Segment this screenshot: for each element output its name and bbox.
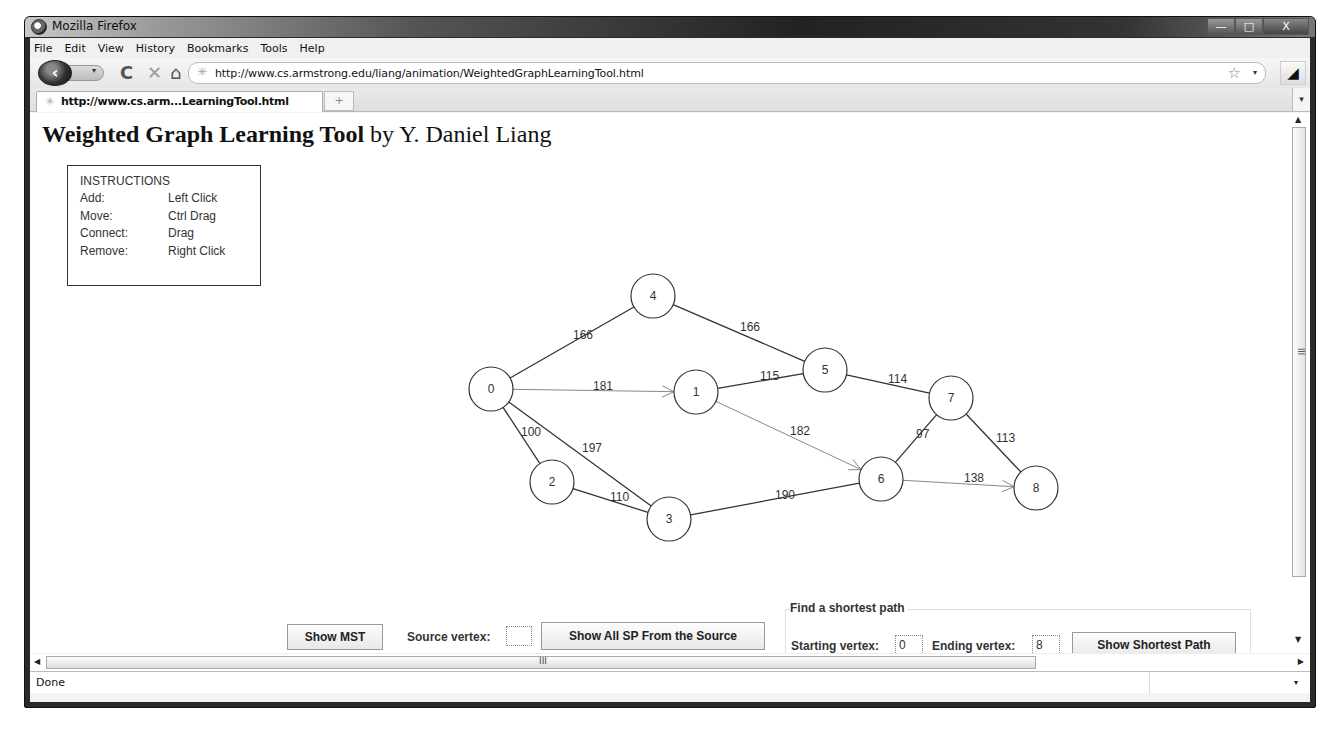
vertex-label: 7	[948, 391, 955, 405]
edge-weight-label: 114	[888, 372, 907, 386]
scroll-up-icon[interactable]: ▲	[1295, 115, 1301, 124]
vertex-label: 4	[650, 289, 657, 303]
home-icon[interactable]: ⌂	[170, 62, 181, 83]
arrowhead-icon	[1002, 487, 1014, 492]
browser-window: Mozilla Firefox — □ X FileEditViewHistor…	[24, 16, 1316, 708]
show-shortest-path-button[interactable]: Show Shortest Path	[1072, 632, 1236, 653]
menu-history[interactable]: History	[136, 42, 175, 55]
show-all-sp-button[interactable]: Show All SP From the Source	[541, 622, 765, 650]
back-button[interactable]: ‹	[38, 60, 72, 86]
menu-tools[interactable]: Tools	[260, 42, 287, 55]
menu-edit[interactable]: Edit	[64, 42, 85, 55]
window-controls: — □ X	[1207, 18, 1309, 35]
firefox-logo-icon	[31, 19, 47, 35]
browser-chrome: FileEditViewHistoryBookmarksToolsHelp ▾ …	[30, 38, 1310, 702]
edge-weight-label: 166	[573, 328, 593, 342]
navigation-toolbar: ▾ ‹ C ✕ ⌂ ✳ http://www.cs.armstrong.edu/…	[30, 58, 1310, 88]
vertex-label: 0	[488, 382, 495, 396]
status-divider	[1149, 672, 1150, 694]
vertex-label: 3	[666, 512, 673, 526]
arrowhead-icon	[662, 392, 674, 397]
edge-1-6[interactable]	[716, 401, 861, 469]
history-dropdown-icon[interactable]: ▾	[92, 66, 96, 75]
tab-active[interactable]: ✳ http://www.cs.arm...LearningTool.html	[36, 91, 323, 112]
edge-weight-label: 113	[996, 431, 1015, 445]
menu-bookmarks[interactable]: Bookmarks	[187, 42, 248, 55]
status-dropdown-icon[interactable]: ▾	[1294, 678, 1298, 687]
addon-icon[interactable]: ◢	[1280, 61, 1306, 85]
scroll-left-icon[interactable]: ◀	[34, 657, 40, 666]
close-button[interactable]: X	[1263, 18, 1309, 35]
edge-weight-label: 138	[964, 471, 984, 485]
edge-weight-label: 181	[593, 379, 613, 393]
status-bar: Done ▾	[30, 671, 1310, 693]
horizontal-scroll-thumb[interactable]: III	[46, 656, 1036, 669]
minimize-button[interactable]: —	[1207, 18, 1235, 35]
title-bar: Mozilla Firefox — □ X	[25, 17, 1315, 37]
starting-vertex-input[interactable]: 0	[895, 635, 923, 653]
tab-list-button[interactable]: ▾	[1292, 88, 1310, 111]
source-vertex-label: Source vertex:	[407, 630, 490, 644]
edge-weight-label: 100	[521, 425, 541, 439]
vertex-label: 6	[878, 472, 885, 486]
edge-weight-label: 197	[582, 441, 602, 455]
edge-weight-label: 182	[790, 424, 810, 438]
vertical-scroll-thumb[interactable]: III	[1292, 127, 1306, 577]
ending-vertex-label: Ending vertex:	[932, 639, 1015, 653]
edge-weight-label: 115	[760, 369, 779, 383]
tab-label: http://www.cs.arm...LearningTool.html	[61, 95, 289, 108]
vertical-grip-icon: III	[1296, 348, 1305, 355]
vertical-scrollbar[interactable]: ▲ III ▼	[1290, 113, 1310, 653]
horizontal-scrollbar[interactable]: ◀ III ▶	[30, 653, 1310, 671]
window-title: Mozilla Firefox	[52, 19, 137, 33]
vertex-label: 2	[549, 475, 556, 489]
vertex-label: 1	[693, 385, 700, 399]
tab-bar: ✳ http://www.cs.arm...LearningTool.html …	[30, 88, 1310, 112]
starting-vertex-label: Starting vertex:	[791, 639, 879, 653]
vertex-label: 8	[1033, 481, 1040, 495]
site-identity-icon[interactable]: ✳	[197, 65, 207, 79]
edge-weight-label: 166	[740, 320, 760, 334]
horizontal-grip-icon: III	[539, 656, 547, 666]
edge-6-8[interactable]	[903, 480, 1014, 486]
tab-favicon-icon: ✳	[45, 95, 54, 108]
bookmark-star-icon[interactable]: ☆	[1228, 64, 1241, 82]
edge-weight-label: 110	[610, 490, 629, 504]
status-text: Done	[36, 676, 65, 689]
edge-weight-label: 190	[775, 488, 795, 502]
vertex-label: 5	[822, 363, 829, 377]
new-tab-button[interactable]: +	[324, 91, 354, 111]
source-vertex-input[interactable]	[506, 626, 532, 646]
page-content: Weighted Graph Learning Tool by Y. Danie…	[30, 113, 1310, 653]
reload-icon[interactable]: C	[120, 62, 133, 83]
arrowhead-icon	[662, 386, 674, 392]
menu-bar: FileEditViewHistoryBookmarksToolsHelp	[30, 38, 1310, 58]
url-input[interactable]: http://www.cs.armstrong.edu/liang/animat…	[215, 67, 644, 80]
scroll-down-icon[interactable]: ▼	[1295, 635, 1301, 644]
edge-weight-label: 97	[916, 427, 930, 441]
edge-4-5[interactable]	[673, 305, 805, 362]
ending-vertex-input[interactable]: 8	[1032, 635, 1060, 653]
shortest-path-group-title: Find a shortest path	[790, 601, 907, 615]
url-bar[interactable]: ✳ http://www.cs.armstrong.edu/liang/anim…	[188, 62, 1266, 84]
url-dropdown-icon[interactable]: ▾	[1253, 68, 1257, 77]
show-mst-button[interactable]: Show MST	[287, 624, 383, 650]
menu-help[interactable]: Help	[300, 42, 325, 55]
edge-0-4[interactable]	[510, 307, 634, 378]
menu-file[interactable]: File	[34, 42, 52, 55]
maximize-button[interactable]: □	[1235, 18, 1263, 35]
scroll-right-icon[interactable]: ▶	[1298, 657, 1304, 666]
menu-view[interactable]: View	[98, 42, 124, 55]
stop-icon[interactable]: ✕	[147, 62, 162, 83]
graph-canvas[interactable]: 1661661811151141001971101821909711313801…	[30, 113, 1280, 633]
